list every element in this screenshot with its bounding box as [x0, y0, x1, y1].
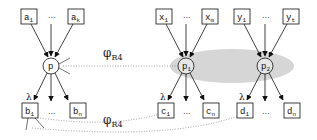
output-box-dn: dn [284, 103, 300, 118]
output-box-cn: cn [203, 103, 219, 118]
ellipsis: ... [183, 107, 191, 116]
node-p1: p1 [178, 58, 194, 74]
mapping-line-d1 [32, 116, 238, 132]
node-p2: p2 [257, 58, 273, 74]
ellipsis: ... [262, 107, 270, 116]
ellipsis: ... [48, 11, 56, 20]
lambda-label: λ [26, 92, 32, 102]
mapping-line-c1 [40, 114, 160, 122]
output-box-bn: bn [70, 103, 86, 118]
lambda-label: λ [239, 92, 245, 102]
diagram: a1 ... ak p λ b1 ... bn φR4 φR4 x1 ... [0, 0, 317, 140]
lambda-label: λ [160, 92, 166, 102]
mapping-label-bottom: φR4 [103, 113, 123, 129]
input-box-x1: x1 [156, 9, 172, 24]
output-box-c1: c1 [158, 103, 174, 118]
input-box-a1: a1 [21, 9, 37, 24]
input-box-yt: yt [283, 9, 299, 24]
ellipsis: ... [48, 107, 56, 116]
svg-text:p: p [48, 62, 53, 72]
input-box-xm: xm [202, 9, 218, 24]
output-box-d1: d1 [237, 103, 253, 118]
node-p: p [43, 58, 59, 74]
ellipsis: ... [183, 11, 191, 20]
output-box-b1: b1 [22, 103, 38, 118]
ellipsis: ... [262, 11, 270, 20]
input-box-ak: ak [68, 9, 84, 24]
mapping-label-top: φR4 [103, 46, 123, 62]
input-box-y1: y1 [234, 9, 250, 24]
